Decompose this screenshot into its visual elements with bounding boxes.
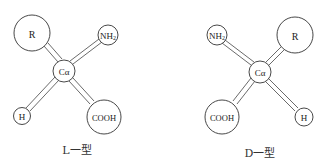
svg-text:H: H <box>19 112 26 122</box>
svg-text:Cα: Cα <box>255 68 266 78</box>
atom-cooh: COOH <box>87 100 121 134</box>
atom-nh2: NH2 <box>207 25 227 45</box>
l-type-molecule: R NH2 Cα H COOH L一型 <box>14 15 122 157</box>
atom-h: H <box>295 108 313 126</box>
svg-text:Cα: Cα <box>59 67 70 77</box>
atom-cooh: COOH <box>205 100 239 134</box>
bond-ca-cooh <box>233 78 255 104</box>
l-type-caption: L一型 <box>62 143 91 157</box>
bond-ca-r <box>266 47 284 65</box>
atom-r: R <box>277 17 313 53</box>
d-type-caption: D一型 <box>245 146 276 160</box>
svg-text:H: H <box>301 113 308 123</box>
atom-r: R <box>14 15 50 51</box>
atom-c-alpha: Cα <box>249 61 271 83</box>
bond-ca-nh2 <box>70 39 102 64</box>
bond-ca-r <box>44 43 62 62</box>
bond-ca-nh2 <box>222 40 254 65</box>
atom-c-alpha: Cα <box>53 60 75 82</box>
d-type-molecule: NH2 R Cα COOH H D一型 <box>205 17 313 160</box>
atom-h: H <box>14 108 31 125</box>
bond-ca-h <box>26 77 59 111</box>
atom-nh2: NH2 <box>98 25 118 45</box>
svg-text:R: R <box>292 31 299 42</box>
bond-ca-h <box>265 78 298 111</box>
bond-ca-cooh <box>69 78 94 104</box>
amino-acid-configuration-diagram: R NH2 Cα H COOH L一型 <box>0 0 327 167</box>
svg-text:COOH: COOH <box>92 113 116 123</box>
svg-text:R: R <box>29 29 36 40</box>
svg-text:COOH: COOH <box>210 113 234 123</box>
